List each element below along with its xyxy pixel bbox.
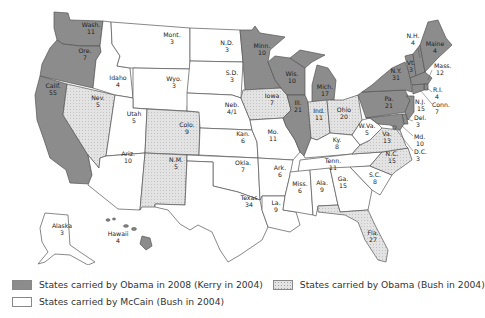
legend-swatch-stippled xyxy=(273,280,293,290)
legend-swatch-dark-gray xyxy=(12,280,32,290)
us-electoral-map: Wash.11 Ore.7 Calif.55 Nev.5 Idaho4 Mont… xyxy=(0,0,465,265)
svg-text:Mass.12: Mass.12 xyxy=(434,62,452,76)
svg-text:D.C.3: D.C.3 xyxy=(414,148,427,162)
svg-text:N.J.15: N.J.15 xyxy=(415,98,425,112)
svg-text:Ga.15: Ga.15 xyxy=(338,175,349,189)
state-mont xyxy=(111,22,190,69)
svg-text:Va.13: Va.13 xyxy=(382,130,392,144)
svg-text:Mo.11: Mo.11 xyxy=(268,128,279,142)
legend-item-obama-bush: States carried by Obama (Bush in 2004) xyxy=(273,279,485,290)
svg-text:Fla.27: Fla.27 xyxy=(367,229,378,243)
svg-text:Del.3: Del.3 xyxy=(414,114,426,128)
svg-text:Ill.21: Ill.21 xyxy=(294,99,302,113)
svg-text:N.H.4: N.H.4 xyxy=(406,32,419,46)
state-sd xyxy=(187,61,243,98)
svg-text:Hawaii4: Hawaii4 xyxy=(108,230,129,244)
state-alaska xyxy=(38,213,95,265)
state-ri xyxy=(424,84,428,90)
state-colo xyxy=(145,109,200,155)
state-nd xyxy=(190,28,243,62)
svg-text:N.Y.31: N.Y.31 xyxy=(390,67,401,81)
state-ny xyxy=(362,62,412,92)
legend-item-mccain-bush: States carried by McCain (Bush in 2004) xyxy=(12,296,224,307)
legend-label: States carried by McCain (Bush in 2004) xyxy=(39,296,224,307)
svg-text:R.I.4: R.I.4 xyxy=(433,86,443,100)
svg-text:Pa.21: Pa.21 xyxy=(384,95,393,109)
legend-label: States carried by Obama (Bush in 2004) xyxy=(300,279,485,290)
legend-item-obama-kerry: States carried by Obama in 2008 (Kerry i… xyxy=(12,279,263,290)
legend-row-1: States carried by Obama in 2008 (Kerry i… xyxy=(12,276,462,293)
svg-text:Md.10: Md.10 xyxy=(414,133,425,147)
legend-row-2: States carried by McCain (Bush in 2004) xyxy=(12,293,462,310)
legend-label: States carried by Obama in 2008 (Kerry i… xyxy=(39,279,263,290)
legend-swatch-white xyxy=(12,297,32,307)
state-wash xyxy=(54,12,103,46)
svg-text:Conn.7: Conn.7 xyxy=(432,101,450,115)
map-legend: States carried by Obama in 2008 (Kerry i… xyxy=(12,276,462,310)
